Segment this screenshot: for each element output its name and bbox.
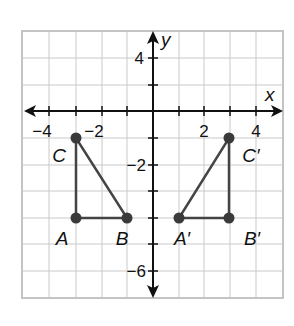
- vertex-b-prime: [224, 213, 235, 224]
- vertex-b: [122, 213, 133, 224]
- vertex-a: [71, 213, 82, 224]
- vertex-c-prime-label: C′: [242, 145, 261, 166]
- y-tick-label: −6: [127, 262, 146, 281]
- y-tick-label: −2: [127, 156, 146, 175]
- x-axis-label: x: [264, 84, 276, 105]
- y-axis-label: y: [159, 29, 172, 50]
- x-tick-label: −4: [32, 122, 51, 141]
- y-tick-label: 4: [135, 49, 144, 68]
- vertex-c: [71, 133, 82, 144]
- coordinate-plane: x y −4 −2 2 4 4 −2 −6 A B C A′ B′ C′: [0, 0, 294, 326]
- x-tick-label: 4: [251, 122, 260, 141]
- vertex-b-prime-label: B′: [244, 228, 262, 249]
- vertex-a-prime: [174, 213, 185, 224]
- vertex-c-label: C: [52, 145, 66, 166]
- vertex-a-prime-label: A′: [173, 228, 192, 249]
- vertex-a-label: A: [55, 228, 69, 249]
- y-axis: [147, 31, 159, 298]
- vertex-c-prime: [224, 133, 235, 144]
- x-tick-label: 2: [199, 122, 208, 141]
- x-tick-label: −2: [84, 122, 103, 141]
- vertex-b-label: B: [116, 228, 129, 249]
